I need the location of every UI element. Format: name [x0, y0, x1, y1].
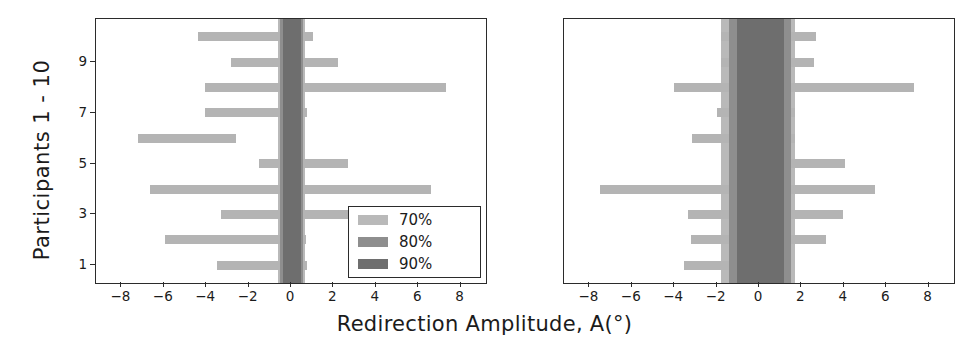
x-tick [120, 282, 121, 287]
x-tick-label: −4 [663, 288, 683, 304]
x-tick [460, 282, 461, 287]
x-tick [843, 282, 844, 287]
x-tick [885, 282, 886, 287]
x-tick-label: 6 [413, 288, 422, 304]
x-tick-label: 8 [923, 288, 932, 304]
x-tick-label: 2 [796, 288, 805, 304]
legend-label: 70% [399, 213, 432, 228]
participant-bar-1 [684, 261, 730, 270]
x-axis-title: Redirection Amplitude, A(°) [0, 312, 969, 336]
y-tick-label: 3 [78, 205, 87, 221]
x-tick-label: 0 [754, 288, 763, 304]
x-tick [248, 282, 249, 287]
x-tick-label: 8 [455, 288, 464, 304]
x-tick-label: −4 [195, 288, 215, 304]
y-axis-title: Participants 1 - 10 [30, 30, 54, 290]
confidence-band-90 [283, 19, 301, 283]
participant-bar-6 [138, 134, 236, 143]
x-tick-label: 4 [838, 288, 847, 304]
x-tick [928, 282, 929, 287]
x-tick [332, 282, 333, 287]
x-tick-label: −6 [621, 288, 641, 304]
x-tick-label: −2 [706, 288, 726, 304]
x-tick-label: −8 [110, 288, 130, 304]
y-tick-label: 7 [78, 104, 87, 120]
y-tick-label: 9 [78, 53, 87, 69]
participant-bar-5 [789, 159, 845, 168]
legend-item: 90% [349, 253, 480, 275]
figure: Participants 1 - 10 13579 −8−6−4−202468 … [0, 0, 969, 348]
x-tick-label: 2 [328, 288, 337, 304]
legend-label: 90% [399, 257, 432, 272]
x-tick-label: 0 [286, 288, 295, 304]
x-tick-label: 4 [370, 288, 379, 304]
x-tick [673, 282, 674, 287]
legend: 70% 80% 90% [348, 206, 481, 278]
x-tick [163, 282, 164, 287]
legend-swatch-80-icon [358, 237, 388, 247]
x-tick-label: −2 [238, 288, 258, 304]
legend-swatch-70-icon [358, 215, 388, 225]
x-tick [205, 282, 206, 287]
y-axis-ticks-left: 13579 [86, 18, 95, 282]
y-tick-label: 1 [78, 256, 87, 272]
x-tick [758, 282, 759, 287]
x-tick-label: 6 [881, 288, 890, 304]
participant-bar-8 [205, 83, 446, 92]
x-tick [631, 282, 632, 287]
x-tick [588, 282, 589, 287]
legend-label: 80% [399, 235, 432, 250]
right-plot-area [564, 19, 954, 283]
legend-swatch-90-icon [358, 259, 388, 269]
x-tick [290, 282, 291, 287]
right-panel [563, 18, 955, 284]
y-tick-label: 5 [78, 155, 87, 171]
legend-item: 80% [349, 231, 480, 253]
confidence-band-90 [737, 19, 784, 283]
x-tick-label: −6 [153, 288, 173, 304]
x-tick [800, 282, 801, 287]
x-tick [375, 282, 376, 287]
x-tick [716, 282, 717, 287]
x-tick [417, 282, 418, 287]
participant-bar-5 [259, 159, 348, 168]
legend-item: 70% [349, 209, 480, 231]
participant-bar-8 [674, 83, 914, 92]
x-tick-label: −8 [578, 288, 598, 304]
